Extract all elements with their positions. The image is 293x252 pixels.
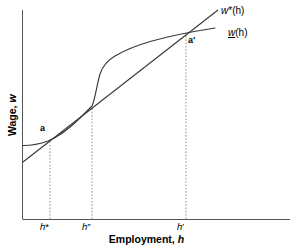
curve-label-w-star: w*(h)	[221, 6, 244, 16]
h-prime-mark: ′	[182, 221, 184, 232]
x-axis-title-plain: Employment,	[109, 233, 178, 245]
w-lower-arg: (h)	[235, 27, 247, 38]
curve-label-w-lower: w(h)	[228, 28, 247, 38]
wage-employment-figure: w*(h) w(h) a a′ h* h″ h′ Employment, h W…	[0, 0, 293, 252]
x-tick-label-h-double-prime: h″	[82, 222, 91, 232]
y-axis-title-variable: w	[6, 94, 18, 102]
x-tick-label-h-star: h*	[40, 222, 49, 232]
w-star-arg: (h)	[232, 5, 244, 16]
point-label-a: a	[40, 124, 45, 133]
y-axis-title: Wage, w	[7, 75, 18, 155]
point-label-a-prime: a′	[188, 36, 195, 45]
x-axis-title-variable: h	[178, 233, 184, 245]
h-double-prime-mark: ″	[87, 221, 90, 232]
h-star-mark: *	[45, 221, 49, 232]
y-axis-title-plain: Wage,	[6, 103, 18, 136]
x-tick-label-h-prime: h′	[177, 222, 184, 232]
x-axis-title: Employment, h	[0, 234, 293, 245]
